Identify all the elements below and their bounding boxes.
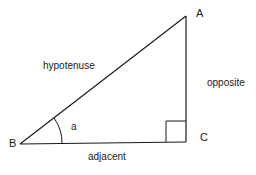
hypotenuse-label: hypotenuse [43, 61, 95, 71]
adjacent-line [20, 142, 186, 144]
vertex-label-c: C [200, 132, 208, 143]
angle-arc [54, 118, 62, 144]
hypotenuse-line [20, 16, 186, 144]
opposite-label: opposite [207, 78, 245, 88]
vertex-label-b: B [9, 138, 16, 149]
right-angle-marker [166, 121, 186, 142]
vertex-label-a: A [196, 8, 203, 19]
angle-label: a [71, 122, 77, 132]
adjacent-label: adjacent [88, 152, 126, 162]
